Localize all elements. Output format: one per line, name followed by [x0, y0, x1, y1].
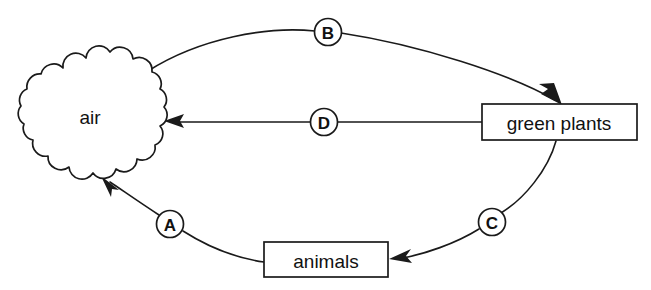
cycle-diagram: air green plants animals B D C [0, 0, 651, 290]
arrow-label-c: C [479, 209, 506, 236]
node-air: air [18, 46, 167, 179]
arrow-b [148, 30, 562, 105]
arrow-label-b: B [315, 19, 342, 46]
diagram-canvas: air green plants animals B D C [0, 0, 651, 290]
node-air-label: air [79, 107, 101, 128]
arrow-b-path [148, 30, 315, 71]
arrow-a-path [183, 231, 264, 262]
arrow-label-c-text: C [486, 214, 498, 233]
arrow-label-d: D [311, 109, 338, 136]
arrow-b-head [539, 83, 562, 105]
arrow-label-b-text: B [322, 24, 334, 43]
arrow-a-path-2 [110, 182, 159, 215]
node-animals: animals [264, 242, 388, 277]
arrow-c-path-2 [403, 229, 479, 258]
arrow-label-a: A [157, 211, 184, 238]
arrow-label-d-text: D [318, 114, 330, 133]
node-green-plants: green plants [482, 104, 637, 140]
node-green-plants-label: green plants [507, 113, 612, 134]
arrow-c-path [501, 141, 556, 213]
node-animals-label: animals [293, 251, 358, 272]
arrow-label-a-text: A [164, 216, 176, 235]
arrow-b-path-2 [341, 33, 555, 100]
arrow-c-head [389, 249, 412, 263]
arrow-c [389, 141, 556, 263]
